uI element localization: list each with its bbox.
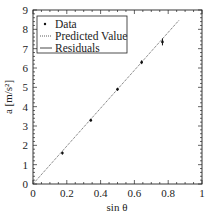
- x-tick-label: 0.4: [94, 187, 108, 199]
- x-tick-label: 0.2: [60, 187, 74, 199]
- data-point: [116, 88, 119, 91]
- data-point: [89, 119, 92, 122]
- legend: Data Predicted Value Residuals: [37, 16, 127, 54]
- y-tick-label: 4: [23, 101, 29, 113]
- data-point: [161, 41, 164, 44]
- chart: 00.20.40.60.810123456789 Data Predicted …: [0, 0, 211, 219]
- data-point: [61, 152, 64, 155]
- y-tick-label: 5: [23, 81, 29, 93]
- y-tick-label: 3: [23, 120, 29, 132]
- data-points: [61, 38, 164, 154]
- y-tick-label: 6: [23, 62, 29, 74]
- x-tick-label: 0.8: [161, 187, 175, 199]
- legend-label-data: Data: [55, 18, 77, 30]
- y-tick-label: 8: [23, 23, 29, 35]
- y-tick-label: 0: [23, 178, 29, 190]
- x-tick-label: 1: [199, 187, 205, 199]
- legend-label-predicted: Predicted Value: [55, 30, 127, 42]
- y-axis-label: a [m/s²]: [2, 80, 14, 114]
- x-axis-label: sin θ: [107, 201, 128, 213]
- y-tick-label: 1: [23, 159, 29, 171]
- legend-label-residuals: Residuals: [55, 42, 100, 54]
- data-point: [140, 61, 143, 64]
- y-tick-label: 2: [23, 139, 29, 151]
- y-tick-label: 9: [23, 4, 29, 16]
- x-tick-label: 0.6: [128, 187, 142, 199]
- x-tick-label: 0: [30, 187, 36, 199]
- y-tick-label: 7: [23, 43, 29, 55]
- legend-data-marker-icon: [44, 23, 46, 25]
